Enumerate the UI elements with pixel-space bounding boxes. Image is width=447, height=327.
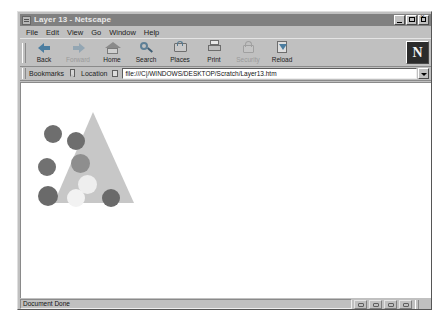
places-button[interactable]: Places bbox=[163, 39, 197, 66]
status-icons bbox=[354, 299, 414, 309]
status-icon-online[interactable] bbox=[354, 300, 367, 309]
home-button[interactable]: Home bbox=[95, 39, 129, 66]
forward-button-label: Forward bbox=[66, 56, 90, 63]
page-canvas[interactable] bbox=[20, 82, 431, 298]
window-document-icon bbox=[22, 16, 31, 25]
window-controls bbox=[394, 15, 431, 25]
circle-dark-1 bbox=[44, 125, 62, 143]
status-icon-security[interactable] bbox=[384, 300, 397, 309]
print-button-label: Print bbox=[207, 56, 220, 63]
maximize-button[interactable] bbox=[406, 15, 417, 25]
netscape-logo-letter: N bbox=[412, 46, 422, 60]
menu-item-help[interactable]: Help bbox=[140, 27, 163, 38]
home-button-label: Home bbox=[103, 56, 120, 63]
places-button-label: Places bbox=[170, 56, 190, 63]
menu-bar: File Edit View Go Window Help bbox=[20, 27, 431, 38]
circle-mid-3 bbox=[71, 154, 90, 173]
url-input-value: file:///C|/WINDOWS/DESKTOP/Scratch/Layer… bbox=[125, 69, 276, 78]
status-icon-component[interactable] bbox=[399, 300, 412, 309]
location-bar: Bookmarks Location file:///C|/WINDOWS/DE… bbox=[20, 67, 431, 81]
location-bar-drag-handle[interactable] bbox=[21, 68, 27, 79]
print-button[interactable]: Print bbox=[197, 39, 231, 66]
security-button[interactable]: Security bbox=[231, 39, 265, 66]
security-lock-icon bbox=[240, 40, 257, 55]
circle-dark-4 bbox=[38, 158, 56, 176]
places-icon bbox=[172, 40, 189, 55]
menu-item-go[interactable]: Go bbox=[87, 27, 105, 38]
page-icon[interactable] bbox=[110, 68, 120, 79]
search-button[interactable]: Search bbox=[129, 39, 163, 66]
reload-button-label: Reload bbox=[272, 56, 293, 63]
status-message: Document Done bbox=[23, 300, 70, 308]
bookmark-icon[interactable] bbox=[67, 68, 78, 79]
circle-dark-8 bbox=[102, 189, 120, 207]
back-button-label: Back bbox=[37, 56, 51, 63]
back-arrow-icon bbox=[36, 40, 53, 55]
window-title: Layer 13 - Netscape bbox=[34, 14, 111, 26]
security-button-label: Security bbox=[236, 56, 259, 63]
circle-light-7 bbox=[67, 189, 85, 207]
status-icon-mail[interactable] bbox=[369, 300, 382, 309]
status-bar: Document Done bbox=[20, 299, 431, 309]
circle-dark-6 bbox=[38, 186, 58, 206]
url-input[interactable]: file:///C|/WINDOWS/DESKTOP/Scratch/Layer… bbox=[122, 68, 417, 79]
reload-button[interactable]: Reload bbox=[265, 39, 299, 66]
menu-item-window[interactable]: Window bbox=[105, 27, 140, 38]
status-bar-grip bbox=[414, 300, 419, 309]
print-icon bbox=[206, 40, 223, 55]
home-icon bbox=[104, 40, 121, 55]
title-bar[interactable]: Layer 13 - Netscape bbox=[20, 14, 431, 26]
forward-button[interactable]: Forward bbox=[61, 39, 95, 66]
status-message-box: Document Done bbox=[20, 299, 352, 309]
menu-item-view[interactable]: View bbox=[63, 27, 87, 38]
bookmarks-label[interactable]: Bookmarks bbox=[29, 70, 64, 77]
menu-item-edit[interactable]: Edit bbox=[42, 27, 63, 38]
navigation-toolbar: Back Forward Home Search Places Print Se… bbox=[20, 38, 431, 67]
menu-item-file[interactable]: File bbox=[22, 27, 42, 38]
browser-window: Layer 13 - Netscape File Edit View Go Wi… bbox=[17, 11, 432, 310]
reload-icon bbox=[274, 40, 291, 55]
close-button[interactable] bbox=[418, 15, 429, 25]
circle-dark-2 bbox=[67, 132, 85, 150]
location-label[interactable]: Location bbox=[81, 70, 107, 77]
search-icon bbox=[138, 40, 155, 55]
forward-arrow-icon bbox=[70, 40, 87, 55]
back-button[interactable]: Back bbox=[27, 39, 61, 66]
minimize-button[interactable] bbox=[394, 15, 405, 25]
page-content bbox=[21, 83, 431, 298]
search-button-label: Search bbox=[136, 56, 157, 63]
toolbar-drag-handle[interactable] bbox=[21, 42, 27, 64]
chevron-down-icon[interactable] bbox=[418, 68, 429, 79]
netscape-logo[interactable]: N bbox=[406, 41, 429, 64]
